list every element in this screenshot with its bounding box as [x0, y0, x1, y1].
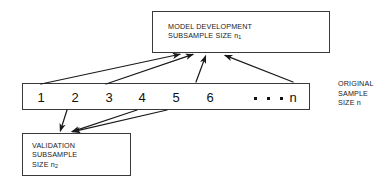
- validation-box-text: VALIDATION SUBSAMPLE SIZE n2: [32, 141, 77, 171]
- original-caption-line1: ORIGINAL: [338, 79, 374, 89]
- model-development-line2: SUBSAMPLE SIZE n1: [168, 31, 252, 43]
- model-development-box: MODEL DEVELOPMENT SUBSAMPLE SIZE n1: [152, 11, 330, 53]
- arrow-to-model-development-from-3: [106, 54, 194, 84]
- validation-subscript: 2: [55, 163, 58, 169]
- arrow-to-validation-from-4: [71, 110, 137, 132]
- sample-unit-5: 5: [168, 90, 184, 105]
- sample-unit-2: 2: [67, 90, 83, 105]
- validation-line3-prefix: SIZE n: [32, 160, 55, 169]
- original-caption-line2: SAMPLE: [338, 89, 374, 99]
- arrow-to-model-development-from-6: [196, 55, 206, 82]
- arrow-to-model-development-from-1: [41, 53, 181, 84]
- model-development-line1: MODEL DEVELOPMENT: [168, 22, 252, 31]
- data-splitting-diagram: MODEL DEVELOPMENT SUBSAMPLE SIZE n1 1 2 …: [0, 0, 391, 188]
- validation-line3: SIZE n2: [32, 160, 77, 172]
- model-development-box-text: MODEL DEVELOPMENT SUBSAMPLE SIZE n1: [168, 22, 252, 43]
- validation-line2: SUBSAMPLE: [32, 150, 77, 159]
- arrow-to-validation-from-2: [60, 110, 67, 132]
- arrow-to-validation-from-5: [72, 110, 167, 133]
- sample-unit-6: 6: [202, 90, 218, 105]
- original-sample-caption: ORIGINAL SAMPLE SIZE n: [338, 79, 374, 108]
- original-caption-line3: SIZE n: [338, 98, 374, 108]
- sample-unit-3: 3: [101, 90, 117, 105]
- arrow-to-model-development-from-n: [224, 55, 293, 82]
- original-sample-bar: 1 2 3 4 5 6 n: [22, 83, 310, 110]
- model-development-line2-prefix: SUBSAMPLE SIZE n: [168, 31, 238, 40]
- validation-line1: VALIDATION: [32, 141, 77, 150]
- sample-unit-1: 1: [33, 90, 49, 105]
- validation-subsample-box: VALIDATION SUBSAMPLE SIZE n2: [22, 133, 131, 176]
- sample-unit-4: 4: [134, 90, 150, 105]
- sample-unit-n: n: [285, 90, 301, 105]
- model-development-subscript: 1: [238, 35, 241, 41]
